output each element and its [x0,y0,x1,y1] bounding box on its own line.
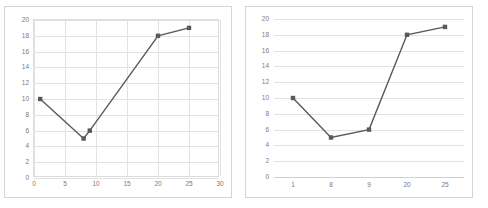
x-tick-label: 30 [216,181,223,188]
x-axis-baseline [274,177,464,178]
series-line [40,28,189,139]
data-point-marker [38,97,42,101]
chart-comparison-figure: 02468101214161820 051015202530 024681012… [0,0,488,208]
gridline [34,178,218,179]
x-tick-label: 20 [154,181,161,188]
data-point-marker [367,127,371,131]
data-point-marker [81,136,85,140]
x-tick-label: 0 [32,181,36,188]
y-tick-label: 16 [22,48,29,55]
y-tick-label: 8 [265,111,269,118]
x-tick-label: 25 [185,181,192,188]
y-tick-label: 14 [262,63,269,70]
y-tick-label: 4 [25,143,29,150]
y-tick-label: 8 [25,112,29,119]
y-tick-label: 18 [262,32,269,39]
y-tick-label: 6 [25,127,29,134]
data-point-marker [291,96,295,100]
right-chart-panel: 02468101214161820 1892025 [245,6,473,198]
x-category-label: 8 [329,182,333,189]
y-tick-label: 16 [262,47,269,54]
x-tick-label: 5 [63,181,67,188]
y-tick-label: 20 [262,16,269,23]
y-tick-label: 0 [265,174,269,181]
y-tick-label: 10 [22,96,29,103]
data-point-marker [405,33,409,37]
y-tick-label: 0 [25,175,29,182]
y-tick-label: 10 [262,95,269,102]
data-point-marker [329,135,333,139]
y-tick-label: 20 [22,17,29,24]
series-line [293,27,445,138]
x-tick-label: 15 [123,181,130,188]
left-chart-panel: 02468101214161820 051015202530 [4,6,232,198]
y-tick-label: 2 [265,158,269,165]
right-chart-plot-area: 02468101214161820 1892025 [274,19,464,177]
x-category-label: 1 [291,182,295,189]
y-tick-label: 12 [22,80,29,87]
x-tick-label: 10 [92,181,99,188]
data-point-marker [443,25,447,29]
left-chart-plot-area: 02468101214161820 051015202530 [33,19,219,177]
data-point-marker [156,34,160,38]
data-point-marker [187,26,191,30]
y-tick-label: 6 [265,126,269,133]
y-tick-label: 4 [265,142,269,149]
y-tick-label: 2 [25,159,29,166]
right-data-series [274,19,464,177]
y-tick-label: 12 [262,79,269,86]
y-tick-label: 18 [22,33,29,40]
left-data-series [34,20,220,178]
x-category-label: 20 [403,182,410,189]
gridline [220,20,221,176]
x-category-label: 25 [441,182,448,189]
y-tick-label: 14 [22,64,29,71]
data-point-marker [88,128,92,132]
x-category-label: 9 [367,182,371,189]
